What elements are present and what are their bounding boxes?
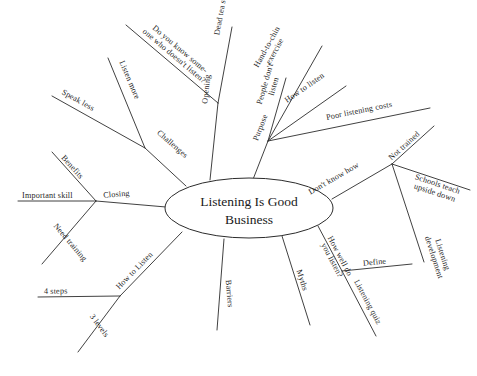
node-label-four-steps[interactable]: 4 steps <box>44 287 68 296</box>
line-opening <box>210 103 218 180</box>
line-purpose <box>252 141 268 182</box>
line-four-steps <box>38 296 120 297</box>
line-need-training <box>42 201 96 264</box>
center-node-label-line1: Listening Is Good <box>200 194 298 209</box>
center-node-label-line2: Business <box>225 212 273 227</box>
line-speak-less <box>52 96 145 148</box>
node-label-important-skill[interactable]: Important skill <box>22 191 73 200</box>
line-closing <box>96 201 166 207</box>
mind-map-canvas: Listening Is Good Business Challenges Sp… <box>0 0 477 376</box>
line-dead-tea-story <box>218 27 232 103</box>
line-how-to-listen <box>120 232 182 296</box>
